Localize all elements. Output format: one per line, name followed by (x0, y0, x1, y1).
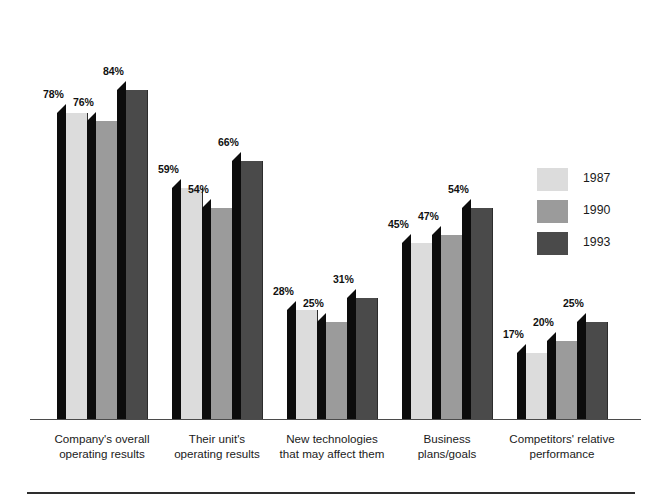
bar-face (66, 113, 88, 420)
bar-value-label: 20% (533, 316, 554, 328)
bar-top-bevel (517, 344, 526, 353)
bar-top-bevel (87, 112, 96, 121)
category-label: Competitors' relative performance (497, 432, 627, 461)
bar-1993-5 (586, 322, 607, 420)
bar-face (441, 235, 463, 420)
x-axis-baseline (30, 419, 641, 420)
bar-top-bevel (57, 104, 66, 113)
bar-value-label: 25% (303, 297, 324, 309)
bar-group (296, 8, 386, 420)
bar-top-bevel (317, 313, 326, 322)
bar-face (356, 298, 378, 420)
legend-swatch-1990 (537, 200, 568, 223)
bar-side-panel (202, 208, 211, 420)
bar-face (211, 208, 233, 420)
bar-1990-4 (441, 235, 462, 420)
bar-side-panel (577, 322, 586, 420)
bar-face (471, 208, 493, 420)
bar-value-label: 45% (388, 218, 409, 230)
bar-value-label: 25% (563, 297, 584, 309)
bar-top-bevel (577, 313, 586, 322)
bar-value-label: 31% (333, 273, 354, 285)
bar-value-label: 54% (448, 183, 469, 195)
legend-label: 1990 (583, 203, 610, 217)
bar-value-label: 78% (43, 88, 64, 100)
legend-label: 1993 (583, 235, 610, 249)
bar-face (96, 121, 118, 420)
bar-top-bevel (232, 152, 241, 161)
bar-side-panel (172, 188, 181, 420)
bar-top-bevel (287, 301, 296, 310)
category-label: Company's overall operating results (37, 432, 167, 461)
bar-1987-3 (296, 310, 317, 420)
bar-group (181, 8, 271, 420)
bar-top-bevel (402, 234, 411, 243)
bar-side-panel (317, 322, 326, 420)
category-label: Business plans/goals (382, 432, 512, 461)
legend-label: 1987 (583, 171, 610, 185)
legend-item-1993[interactable]: 1993 (537, 232, 647, 264)
bar-1990-1 (96, 121, 117, 420)
bar-value-label: 47% (418, 210, 439, 222)
bar-value-label: 76% (73, 96, 94, 108)
bar-face (411, 243, 433, 420)
bar-value-label: 28% (273, 285, 294, 297)
bar-1993-2 (241, 161, 262, 420)
bar-top-bevel (117, 81, 126, 90)
bar-face (526, 353, 548, 420)
bar-face (181, 188, 203, 420)
bar-value-label: 54% (188, 183, 209, 195)
legend-item-1990[interactable]: 1990 (537, 200, 647, 232)
bar-value-label: 66% (218, 136, 239, 148)
bar-face (556, 341, 578, 420)
bar-top-bevel (347, 289, 356, 298)
bar-side-panel (232, 161, 241, 420)
category-label: Their unit's operating results (152, 432, 282, 461)
bar-side-panel (547, 341, 556, 420)
legend-swatch-1987 (537, 168, 568, 191)
bar-1993-3 (356, 298, 377, 420)
bar-value-label: 17% (503, 328, 524, 340)
bar-1990-5 (556, 341, 577, 420)
bar-side-panel (402, 243, 411, 420)
bar-side-panel (347, 298, 356, 420)
bar-side-panel (287, 310, 296, 420)
bar-side-panel (432, 235, 441, 420)
bar-top-bevel (547, 332, 556, 341)
bar-side-panel (57, 113, 66, 420)
bar-side-panel (517, 353, 526, 420)
bar-1993-1 (126, 90, 147, 420)
bar-value-label: 59% (158, 163, 179, 175)
bar-1993-4 (471, 208, 492, 420)
legend-swatch-1993 (537, 232, 568, 255)
bar-face (586, 322, 608, 420)
bar-top-bevel (462, 199, 471, 208)
bar-top-bevel (172, 179, 181, 188)
bar-chart: 198719901993 78%76%84%Company's overall … (0, 0, 662, 503)
bar-side-panel (117, 90, 126, 420)
bar-side-panel (462, 208, 471, 420)
bar-1987-1 (66, 113, 87, 420)
bar-face (241, 161, 263, 420)
bar-face (126, 90, 148, 420)
category-label: New technologies that may affect them (267, 432, 397, 461)
chart-legend: 198719901993 (537, 168, 647, 264)
bar-1990-2 (211, 208, 232, 420)
bar-top-bevel (432, 226, 441, 235)
bar-face (326, 322, 348, 420)
footer-divider (27, 492, 635, 494)
bar-1990-3 (326, 322, 347, 420)
bar-top-bevel (202, 199, 211, 208)
bar-side-panel (87, 121, 96, 420)
bar-value-label: 84% (103, 65, 124, 77)
bar-1987-4 (411, 243, 432, 420)
bar-face (296, 310, 318, 420)
bar-1987-5 (526, 353, 547, 420)
legend-item-1987[interactable]: 1987 (537, 168, 647, 200)
bar-1987-2 (181, 188, 202, 420)
